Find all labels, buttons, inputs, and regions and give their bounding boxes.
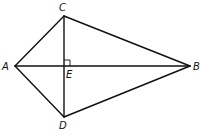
segment-da — [15, 66, 64, 117]
right-angle-marker — [64, 60, 70, 66]
label-c: C — [59, 2, 66, 13]
label-e: E — [66, 69, 73, 80]
kite-diagram: C A E B D — [0, 0, 200, 138]
segment-bd — [64, 66, 190, 117]
segment-cb — [64, 16, 190, 66]
label-a: A — [1, 61, 9, 72]
segment-ac — [15, 16, 64, 66]
label-d: D — [59, 120, 67, 131]
label-b: B — [193, 61, 200, 72]
